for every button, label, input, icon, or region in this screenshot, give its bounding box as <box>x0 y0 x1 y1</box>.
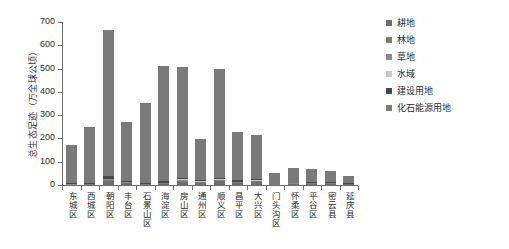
legend-item[interactable]: 建设用地 <box>386 83 506 99</box>
bar-stack <box>140 103 151 185</box>
legend-swatch-lindi <box>386 37 392 43</box>
bar-segment <box>177 182 188 185</box>
x-axis-label: 东城区 <box>67 192 76 219</box>
bar-segment <box>251 182 262 185</box>
x-axis-tick-mark <box>247 186 248 190</box>
x-axis-label: 顺义区 <box>215 192 224 219</box>
x-axis-tick-mark <box>192 186 193 190</box>
bar-segment <box>103 181 114 185</box>
bar-stack <box>84 127 95 185</box>
bar-column[interactable] <box>140 22 151 185</box>
y-axis-tick: 0 <box>0 185 62 186</box>
bar-segment <box>288 184 299 185</box>
x-axis-tick-mark <box>118 186 119 190</box>
bar-segment <box>121 122 132 181</box>
bar-segment <box>177 67 188 177</box>
x-axis-label: 怀柔区 <box>289 192 298 219</box>
x-axis-label: 海淀区 <box>159 192 168 219</box>
bar-stack <box>103 30 114 185</box>
bar-segment <box>140 103 151 183</box>
x-axis-tick-mark <box>136 186 137 190</box>
bar-column[interactable] <box>121 22 132 185</box>
x-axis-tick-mark <box>340 186 341 190</box>
bar-segment <box>195 183 206 185</box>
bar-column[interactable] <box>325 22 336 185</box>
legend-item[interactable]: 林地 <box>386 32 506 48</box>
y-axis-tick: 200 <box>0 138 62 139</box>
x-axis-tick-mark <box>284 186 285 190</box>
y-axis-ticks: 0100200300400500600700 <box>0 0 62 249</box>
bar-column[interactable] <box>343 22 354 185</box>
x-axis-label: 平谷区 <box>307 192 316 219</box>
y-axis-tick: 600 <box>0 45 62 46</box>
bar-segment <box>158 66 169 181</box>
x-axis-tick-mark <box>321 186 322 190</box>
x-axis-label: 大兴区 <box>252 192 261 219</box>
bar-column[interactable] <box>232 22 243 185</box>
bar-column[interactable] <box>288 22 299 185</box>
x-axis-label: 朝阳区 <box>104 192 113 219</box>
x-axis-label: 密云县 <box>326 192 335 219</box>
bar-stack <box>121 122 132 185</box>
legend-item[interactable]: 草地 <box>386 49 506 65</box>
bar-column[interactable] <box>103 22 114 185</box>
legend-item[interactable]: 化石能源用地 <box>386 100 506 116</box>
bar-segment <box>66 145 77 183</box>
x-axis-label: 门头沟区 <box>270 192 279 228</box>
bar-segment <box>232 132 243 180</box>
bar-segment <box>343 176 354 183</box>
bar-stack <box>251 135 262 185</box>
bar-segment <box>288 168 299 182</box>
legend-item-label: 水域 <box>397 69 415 79</box>
y-axis-tick: 100 <box>0 162 62 163</box>
x-axis-tick-mark <box>210 186 211 190</box>
x-axis-tick-mark <box>173 186 174 190</box>
bar-segment <box>214 69 225 177</box>
bar-segment <box>325 184 336 185</box>
x-axis-tick-mark <box>358 186 359 190</box>
legend-swatch-caodi <box>386 54 392 60</box>
x-axis-label: 丰台区 <box>122 192 131 219</box>
bar-column[interactable] <box>251 22 262 185</box>
x-axis-label: 昌平区 <box>233 192 242 219</box>
x-axis-label: 通州区 <box>196 192 205 219</box>
bar-stack <box>269 173 280 185</box>
bar-segment <box>232 183 243 185</box>
x-axis-tick-mark <box>266 186 267 190</box>
y-axis-tick-label: 0 <box>50 179 55 190</box>
x-axis-label: 石景山区 <box>141 192 150 228</box>
bar-stack <box>195 139 206 185</box>
legend-item-label: 草地 <box>397 52 415 62</box>
bar-column[interactable] <box>306 22 317 185</box>
x-axis-label: 西城区 <box>85 192 94 219</box>
legend-item[interactable]: 水域 <box>386 66 506 82</box>
bars-layer <box>62 22 358 185</box>
x-axis-label: 延庆县 <box>344 192 353 219</box>
y-axis-tick: 700 <box>0 22 62 23</box>
legend-swatch-gengdi <box>386 20 392 26</box>
bar-column[interactable] <box>177 22 188 185</box>
bar-stack <box>177 67 188 185</box>
bar-column[interactable] <box>158 22 169 185</box>
bar-stack <box>343 176 354 185</box>
bar-column[interactable] <box>66 22 77 185</box>
bar-segment <box>306 184 317 185</box>
legend-item[interactable]: 耕地 <box>386 15 506 31</box>
bar-segment <box>269 173 280 183</box>
bar-column[interactable] <box>195 22 206 185</box>
bar-stack <box>306 169 317 185</box>
bar-column[interactable] <box>84 22 95 185</box>
x-axis-tick-mark <box>62 186 63 190</box>
y-axis-tick-label: 500 <box>40 63 55 74</box>
y-axis-tick-label: 600 <box>40 39 55 50</box>
bar-column[interactable] <box>214 22 225 185</box>
bar-segment <box>84 127 95 183</box>
bar-stack <box>214 69 225 185</box>
bar-segment <box>158 184 169 185</box>
bar-segment <box>121 183 132 185</box>
legend-item-label: 耕地 <box>397 18 415 28</box>
bar-column[interactable] <box>269 22 280 185</box>
bar-segment <box>306 169 317 182</box>
bar-segment <box>325 171 336 183</box>
x-axis-tick-mark <box>229 186 230 190</box>
